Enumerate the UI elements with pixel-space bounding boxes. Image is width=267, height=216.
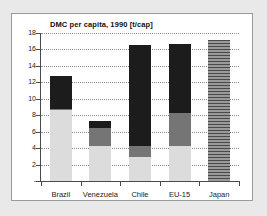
x-axis-tick [239,181,240,186]
bar-segment-mid [50,109,72,110]
chart-title: DMC per capita, 1990 [t/cap] [50,20,153,29]
bar-segment-low [50,110,72,181]
bar-segment-mid [169,113,191,146]
bar-segment-striped [208,40,230,181]
y-axis-tick [36,66,41,67]
x-axis-tick [41,181,42,186]
y-axis-tick [36,165,41,166]
y-axis-tick-label: 2 [16,161,36,168]
chart-card: DMC per capita, 1990 [t/cap] 18161412108… [11,13,253,201]
x-axis-label-brazil: Brazil [41,190,81,199]
bar-segment-mid [89,128,111,146]
y-axis-tick-label: 18 [16,29,36,36]
x-axis-label-venezuela: Venezuela [81,190,121,199]
bar-chile[interactable] [129,33,151,181]
y-axis-tick [36,132,41,133]
bar-segment-low [169,146,191,181]
y-axis-tick [36,33,41,34]
y-axis-tick [36,99,41,100]
y-axis-tick [36,115,41,116]
bar-brazil[interactable] [50,33,72,181]
y-axis-tick [36,82,41,83]
y-axis-tick-label: 14 [16,62,36,69]
x-axis-tick [120,181,121,186]
x-axis-label-eu-15: EU-15 [160,190,200,199]
bar-segment-high [89,121,111,128]
y-axis-tick-label: 12 [16,78,36,85]
chart-page: DMC per capita, 1990 [t/cap] 18161412108… [0,0,267,216]
x-axis-tick [160,181,161,186]
bar-segment-low [89,146,111,181]
bar-japan[interactable] [208,33,230,181]
y-axis-tick-label: 4 [16,144,36,151]
bar-venezuela[interactable] [89,33,111,181]
bar-segment-high [169,44,191,113]
bar-segment-low [129,157,151,181]
y-axis-tick-label: - [16,177,36,184]
x-axis-line [40,181,239,182]
bar-segment-mid [129,146,151,157]
x-axis-tick [81,181,82,186]
x-axis-tick [199,181,200,186]
y-axis-tick-label: 6 [16,128,36,135]
x-axis-label-chile: Chile [120,190,160,199]
y-axis-tick-label: 10 [16,95,36,102]
y-axis-labels: 18161412108642- [12,14,36,202]
bar-segment-high [50,76,72,110]
bar-segment-high [129,45,151,146]
y-axis-tick-label: 16 [16,45,36,52]
y-axis-tick-label: 8 [16,111,36,118]
bar-eu-15[interactable] [169,33,191,181]
y-axis-tick [36,148,41,149]
x-axis-label-japan: Japan [199,190,239,199]
y-axis-tick [36,49,41,50]
